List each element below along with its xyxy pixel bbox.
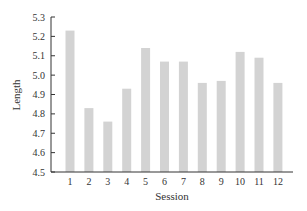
y-tick-label: 5.2 xyxy=(33,31,46,42)
bar-session-4 xyxy=(122,89,131,172)
y-tick-label: 4.6 xyxy=(33,147,46,158)
y-axis-title: Length xyxy=(10,79,22,111)
x-axis-ticks: 123456789101112 xyxy=(68,176,283,187)
y-tick-label: 4.5 xyxy=(33,167,46,178)
x-tick-label: 8 xyxy=(200,176,205,187)
x-tick-label: 3 xyxy=(105,176,110,187)
bar-session-3 xyxy=(103,122,112,172)
bar-session-8 xyxy=(198,83,207,172)
bar-session-2 xyxy=(84,108,93,172)
y-tick-label: 4.7 xyxy=(33,128,46,139)
x-tick-label: 11 xyxy=(254,176,264,187)
bar-session-1 xyxy=(66,31,75,172)
x-tick-label: 5 xyxy=(143,176,148,187)
y-axis-ticks: 4.54.64.74.84.95.05.15.25.3 xyxy=(33,12,56,178)
x-axis-title: Session xyxy=(155,190,189,202)
x-tick-label: 1 xyxy=(68,176,73,187)
y-tick-label: 5.0 xyxy=(33,70,46,81)
x-tick-label: 10 xyxy=(235,176,245,187)
y-tick-label: 4.9 xyxy=(33,89,46,100)
bar-session-11 xyxy=(255,58,264,172)
bar-session-12 xyxy=(273,83,282,172)
bar-session-9 xyxy=(217,81,226,172)
x-tick-label: 7 xyxy=(181,176,186,187)
bar-session-7 xyxy=(179,62,188,172)
x-tick-label: 12 xyxy=(273,176,283,187)
x-tick-label: 9 xyxy=(219,176,224,187)
x-tick-label: 4 xyxy=(124,176,129,187)
bar-session-6 xyxy=(160,62,169,172)
y-tick-label: 5.3 xyxy=(33,12,46,23)
y-tick-label: 4.8 xyxy=(33,108,46,119)
y-tick-label: 5.1 xyxy=(33,50,46,61)
bar-session-5 xyxy=(141,48,150,172)
bar-chart: 4.54.64.74.84.95.05.15.25.3 123456789101… xyxy=(0,0,307,211)
bars-group xyxy=(66,31,283,172)
x-tick-label: 2 xyxy=(86,176,91,187)
x-tick-label: 6 xyxy=(162,176,167,187)
bar-session-10 xyxy=(236,52,245,172)
